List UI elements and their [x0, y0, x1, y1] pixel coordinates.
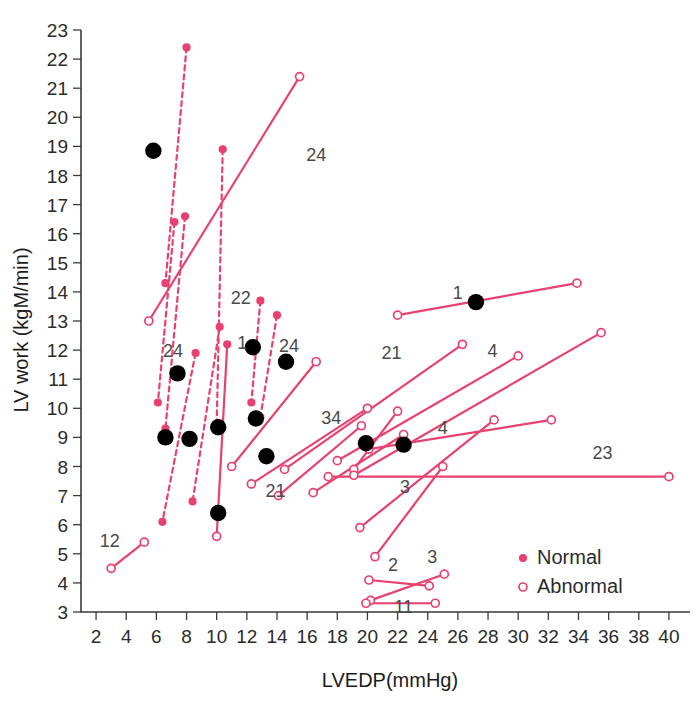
data-annotation-label: 4 — [488, 341, 498, 361]
normal-point-marker — [181, 212, 189, 220]
data-annotation-label: 22 — [231, 288, 251, 308]
y-tick-label: 15 — [47, 253, 68, 274]
abnormal-point-marker — [312, 358, 320, 366]
y-tick-label: 12 — [47, 340, 68, 361]
y-tick-label: 13 — [47, 311, 68, 332]
black-data-point — [210, 505, 226, 521]
y-tick-label: 22 — [47, 49, 68, 70]
y-tick-label: 8 — [57, 457, 68, 478]
data-annotation-label: 3 — [400, 477, 410, 497]
x-tick-label: 24 — [417, 626, 439, 647]
abnormal-point-marker — [107, 564, 115, 572]
y-tick-label: 3 — [57, 602, 68, 623]
abnormal-point-marker — [371, 553, 379, 561]
y-axis-title: LV work (kgM/min) — [10, 247, 32, 412]
y-tick-label: 14 — [47, 282, 69, 303]
paired-segment-line — [165, 47, 186, 283]
data-annotation-label: 24 — [306, 145, 326, 165]
data-annotation-label: 21 — [382, 343, 402, 363]
legend-entry-label: Abnormal — [537, 575, 623, 597]
x-axis-title: LVEDP(mmHg) — [322, 669, 458, 691]
y-tick-label: 11 — [48, 369, 68, 390]
y-tick-label: 23 — [47, 20, 68, 41]
black-data-point — [468, 294, 484, 310]
legend-entry-label: Normal — [537, 546, 601, 568]
y-tick-label: 6 — [57, 515, 68, 536]
x-tick-label: 18 — [327, 626, 348, 647]
abnormal-point-marker — [365, 576, 373, 584]
abnormal-point-marker — [514, 352, 522, 360]
abnormal-point-marker — [573, 279, 581, 287]
x-tick-label: 30 — [508, 626, 529, 647]
abnormal-point-marker — [309, 489, 317, 497]
data-annotation-label: 4 — [438, 418, 448, 438]
y-tick-label: 20 — [47, 107, 68, 128]
black-data-point — [157, 429, 173, 445]
y-tick-label: 10 — [47, 398, 68, 419]
abnormal-point-marker — [228, 463, 236, 471]
black-data-point — [210, 419, 226, 435]
x-tick-label: 2 — [91, 626, 102, 647]
abnormal-point-marker — [356, 524, 364, 532]
x-tick-label: 38 — [628, 626, 649, 647]
black-data-point — [358, 435, 374, 451]
y-tick-label: 21 — [47, 78, 68, 99]
abnormal-point-marker — [394, 407, 402, 415]
normal-point-marker — [188, 497, 196, 505]
paired-segment-line — [149, 77, 300, 321]
x-tick-label: 4 — [121, 626, 132, 647]
x-tick-label: 28 — [477, 626, 498, 647]
abnormal-point-marker — [394, 311, 402, 319]
abnormal-point-marker — [145, 317, 153, 325]
y-tick-label: 16 — [47, 224, 68, 245]
black-data-point — [248, 410, 264, 426]
y-tick-label: 19 — [47, 136, 68, 157]
abnormal-point-marker — [665, 473, 673, 481]
y-tick-label: 17 — [47, 195, 68, 216]
data-annotation-label: 34 — [321, 408, 341, 428]
abnormal-point-marker — [490, 416, 498, 424]
paired-segment-line — [278, 426, 361, 496]
abnormal-point-marker — [324, 473, 332, 481]
x-tick-label: 8 — [181, 626, 192, 647]
paired-segment-line — [217, 149, 223, 425]
black-data-point — [258, 448, 274, 464]
segments-group — [111, 47, 669, 603]
data-annotation-label: 3 — [427, 547, 437, 567]
abnormal-point-marker — [439, 463, 447, 471]
data-annotation-label: 23 — [593, 443, 613, 463]
normal-point-marker — [216, 323, 224, 331]
y-tick-label: 9 — [57, 427, 68, 448]
paired-segment-line — [260, 315, 277, 417]
x-tick-label: 10 — [206, 626, 227, 647]
normal-point-marker — [154, 398, 162, 406]
normal-point-marker — [256, 297, 264, 305]
abnormal-point-marker — [357, 422, 365, 430]
data-annotation-label: 24 — [163, 341, 183, 361]
x-tick-label: 16 — [297, 626, 318, 647]
x-tick-label: 14 — [266, 626, 288, 647]
x-tick-label: 26 — [447, 626, 468, 647]
black-data-point — [278, 354, 294, 370]
x-tick-label: 40 — [658, 626, 679, 647]
abnormal-point-marker — [431, 599, 439, 607]
x-tick-label: 34 — [568, 626, 590, 647]
x-tick-label: 6 — [151, 626, 162, 647]
normal-point-marker — [182, 43, 190, 51]
abnormal-point-marker — [363, 404, 371, 412]
x-tick-label: 20 — [357, 626, 378, 647]
y-tick-label: 5 — [57, 544, 68, 565]
abnormal-point-marker — [425, 582, 433, 590]
y-tick-label: 18 — [47, 166, 68, 187]
x-tick-label: 12 — [236, 626, 257, 647]
abnormal-point-marker — [213, 532, 221, 540]
scatter-plot-canvas: 3456789101112131415161718192021222324681… — [0, 0, 698, 711]
black-data-point — [395, 436, 411, 452]
abnormal-point-marker — [362, 599, 370, 607]
abnormal-point-marker — [440, 570, 448, 578]
black-data-point — [145, 143, 161, 159]
normal-point-marker — [247, 398, 255, 406]
normal-point-marker — [158, 518, 166, 526]
x-tick-label: 36 — [598, 626, 619, 647]
x-tick-label: 22 — [387, 626, 408, 647]
